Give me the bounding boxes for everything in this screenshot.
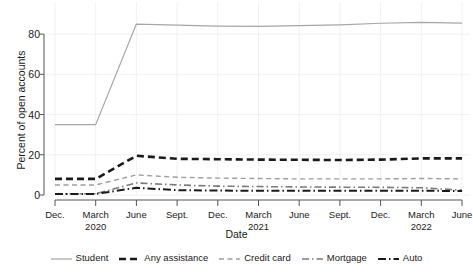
legend-label-credit-card: Credit card [244, 252, 290, 263]
chart-legend: StudentAny assistanceCredit cardMortgage… [0, 252, 473, 263]
legend-swatch-mortgage [302, 254, 323, 262]
legend-swatch-any-assistance [119, 254, 140, 262]
legend-swatch-student [51, 254, 72, 262]
chart-figure: Percent of open accounts 020406080 Date … [0, 0, 473, 278]
legend-item-any-assistance[interactable]: Any assistance [119, 252, 208, 263]
x-tick-month: June [436, 209, 473, 221]
legend-label-auto: Auto [403, 252, 423, 263]
legend-item-student[interactable]: Student [51, 252, 109, 263]
grid-lines [44, 2, 470, 195]
x-tick-year: 2020 [70, 221, 122, 233]
legend-label-student: Student [76, 252, 109, 263]
x-axis-tick-label: June [436, 209, 473, 221]
legend-item-mortgage[interactable]: Mortgage [302, 252, 367, 263]
legend-swatch-credit-card [219, 254, 240, 262]
legend-label-mortgage: Mortgage [327, 252, 367, 263]
legend-item-credit-card[interactable]: Credit card [219, 252, 290, 263]
x-tick-year: 2021 [233, 221, 285, 233]
axes [39, 34, 462, 206]
legend-item-auto[interactable]: Auto [378, 252, 423, 263]
legend-label-any-assistance: Any assistance [144, 252, 208, 263]
x-tick-year: 2022 [395, 221, 447, 233]
legend-swatch-auto [378, 254, 399, 262]
